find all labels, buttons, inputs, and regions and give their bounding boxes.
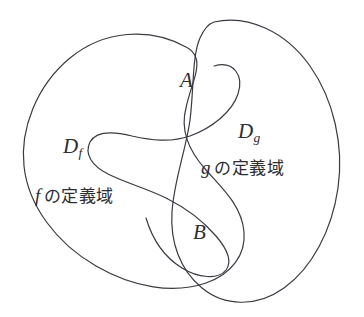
domain-g-caption: gの定義域 bbox=[201, 158, 284, 177]
set-label-a: A bbox=[180, 70, 193, 91]
set-label-b: B bbox=[193, 222, 206, 243]
domain-f-symbol-label: Df bbox=[63, 136, 82, 157]
domain-f-subscript: f bbox=[78, 145, 82, 160]
domain-f-caption-jp: の定義域 bbox=[44, 186, 114, 206]
domain-f-caption-fn: f bbox=[35, 185, 44, 206]
lobe-a-shaded-region bbox=[160, 65, 240, 138]
domain-f-letter: D bbox=[63, 134, 78, 158]
venn-diagram-figure: A B Df Dg fの定義域 gの定義域 bbox=[0, 0, 364, 317]
venn-diagram-canvas bbox=[0, 0, 364, 317]
domain-g-caption-fn: g bbox=[201, 157, 214, 178]
domain-g-letter: D bbox=[238, 119, 253, 143]
domain-g-symbol-label: Dg bbox=[238, 121, 260, 142]
domain-g-subscript: g bbox=[253, 130, 260, 145]
domain-f-caption: fの定義域 bbox=[35, 186, 114, 205]
domain-g-caption-jp: の定義域 bbox=[214, 158, 284, 178]
